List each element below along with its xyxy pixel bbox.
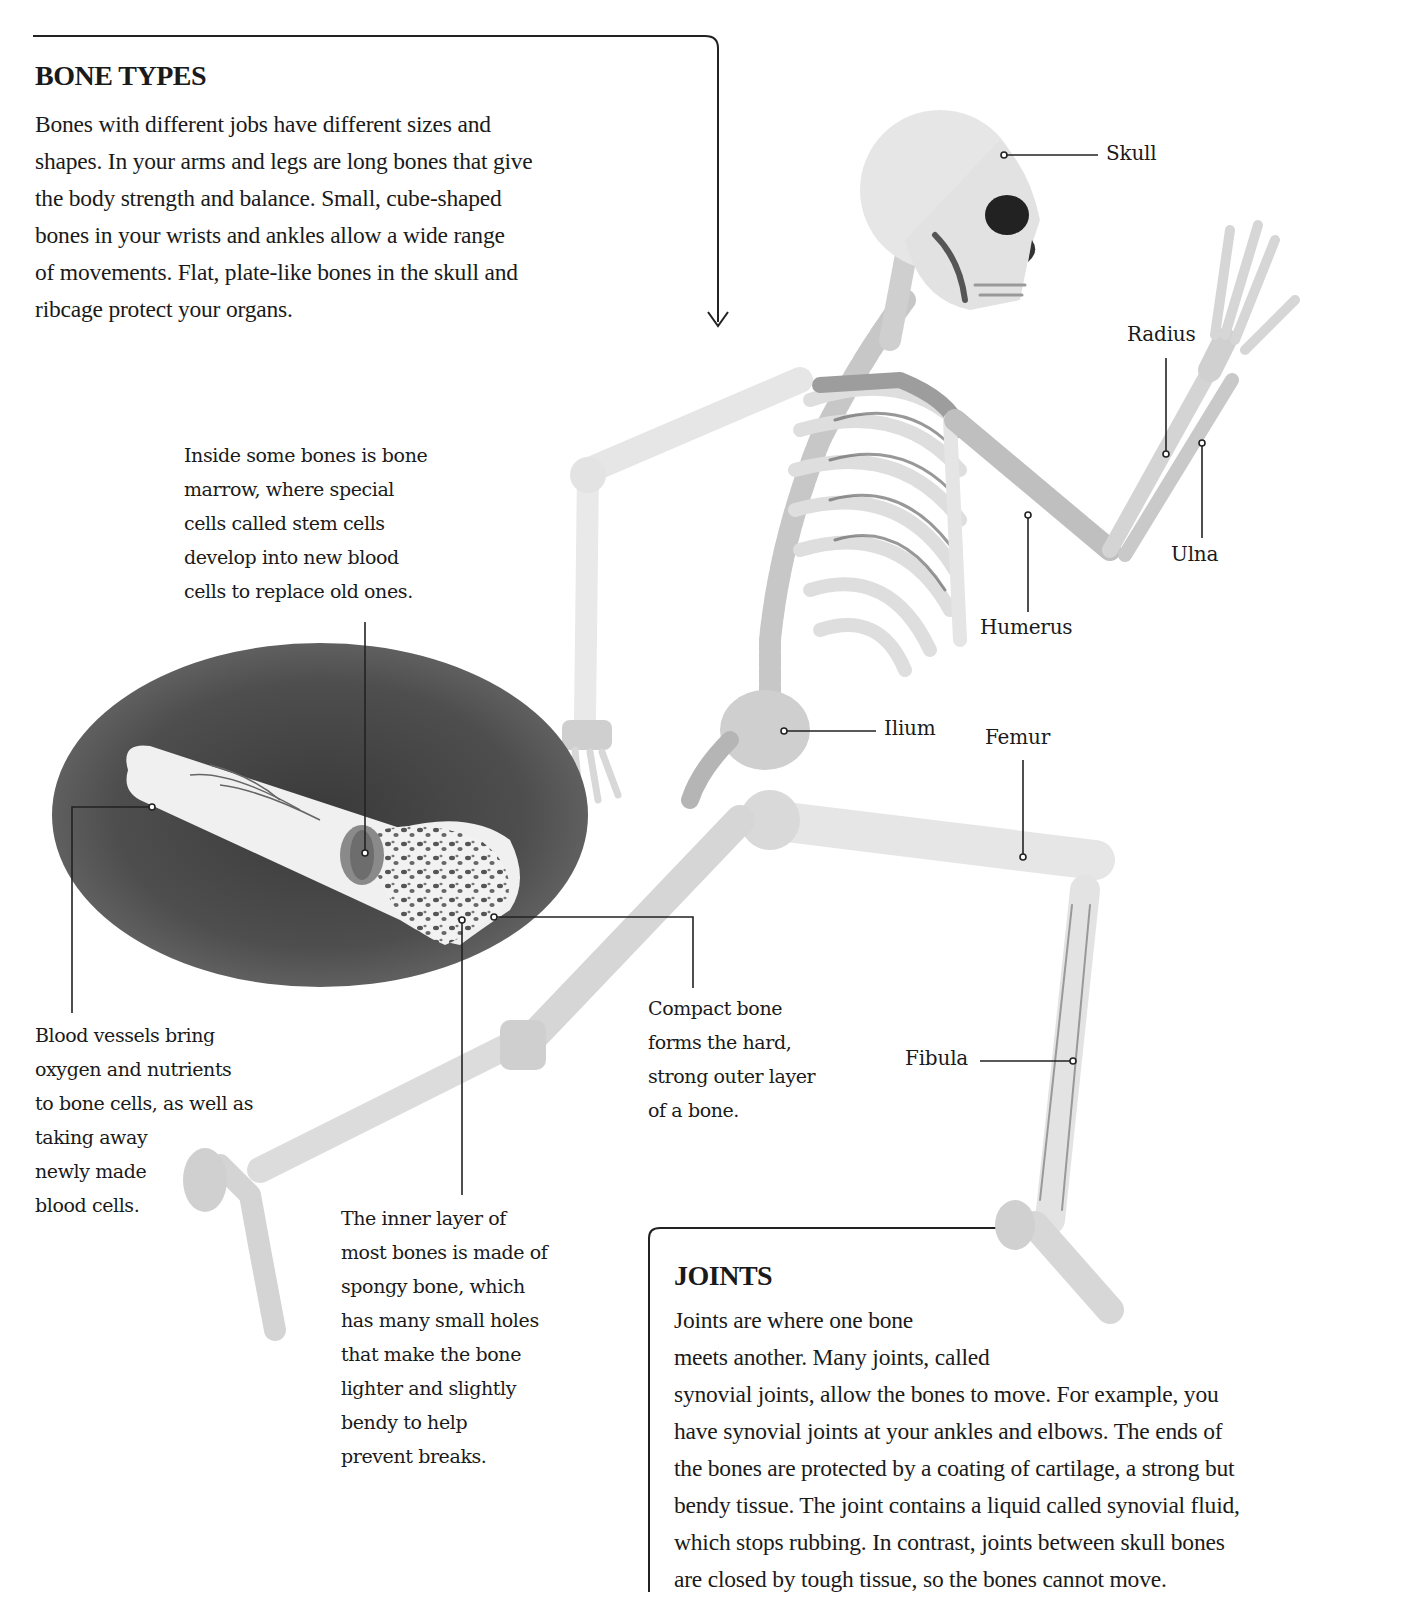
label-skull: Skull (1106, 141, 1157, 165)
text-line: most bones is made of (341, 1235, 547, 1269)
text-line: synovial joints, allow the bones to move… (674, 1376, 1414, 1413)
text-line: bendy tissue. The joint contains a liqui… (674, 1487, 1414, 1524)
text-line: prevent breaks. (341, 1439, 547, 1473)
text-line: Bones with different jobs have different… (35, 106, 695, 143)
text-line: Compact bone (648, 991, 815, 1025)
text-line: the bones are protected by a coating of … (674, 1450, 1414, 1487)
label-humerus: Humerus (980, 615, 1072, 639)
bone-types-paragraph: Bones with different jobs have different… (35, 106, 695, 328)
marrow-caption: Inside some bones is bone marrow, where … (184, 438, 427, 608)
compact-bone-caption: Compact bone forms the hard, strong oute… (648, 991, 815, 1127)
joints-paragraph: Joints are where one bone meets another.… (674, 1302, 1414, 1598)
text-line: has many small holes (341, 1303, 547, 1337)
label-ulna: Ulna (1171, 542, 1218, 566)
text-line: blood cells. (35, 1188, 253, 1222)
text-line: Joints are where one bone (674, 1302, 1414, 1339)
text-line: meets another. Many joints, called (674, 1339, 1414, 1376)
text-line: marrow, where special (184, 472, 427, 506)
text-line: which stops rubbing. In contrast, joints… (674, 1524, 1414, 1561)
text-line: forms the hard, (648, 1025, 815, 1059)
bone-cross-section (52, 643, 588, 987)
label-femur: Femur (985, 725, 1050, 749)
text-line: Inside some bones is bone (184, 438, 427, 472)
text-line: Blood vessels bring (35, 1018, 253, 1052)
bone-types-heading: BONE TYPES (35, 60, 206, 92)
text-line: spongy bone, which (341, 1269, 547, 1303)
spongy-bone-caption: The inner layer of most bones is made of… (341, 1201, 547, 1473)
text-line: develop into new blood (184, 540, 427, 574)
text-line: oxygen and nutrients (35, 1052, 253, 1086)
blood-vessels-caption: Blood vessels bring oxygen and nutrients… (35, 1018, 253, 1222)
label-ilium: Ilium (884, 716, 936, 740)
text-line: are closed by tough tissue, so the bones… (674, 1561, 1414, 1598)
text-line: strong outer layer (648, 1059, 815, 1093)
text-line: cells called stem cells (184, 506, 427, 540)
text-line: shapes. In your arms and legs are long b… (35, 143, 695, 180)
text-line: the body strength and balance. Small, cu… (35, 180, 695, 217)
text-line: taking away (35, 1120, 253, 1154)
text-line: to bone cells, as well as (35, 1086, 253, 1120)
text-line: The inner layer of (341, 1201, 547, 1235)
text-line: ribcage protect your organs. (35, 291, 695, 328)
text-line: cells to replace old ones. (184, 574, 427, 608)
text-line: of a bone. (648, 1093, 815, 1127)
joints-heading: JOINTS (674, 1260, 772, 1292)
text-line: newly made (35, 1154, 253, 1188)
text-line: have synovial joints at your ankles and … (674, 1413, 1414, 1450)
text-line: that make the bone (341, 1337, 547, 1371)
label-radius: Radius (1127, 322, 1196, 346)
text-line: bones in your wrists and ankles allow a … (35, 217, 695, 254)
label-fibula: Fibula (905, 1046, 968, 1070)
text-line: lighter and slightly (341, 1371, 547, 1405)
text-line: of movements. Flat, plate-like bones in … (35, 254, 695, 291)
text-line: bendy to help (341, 1405, 547, 1439)
